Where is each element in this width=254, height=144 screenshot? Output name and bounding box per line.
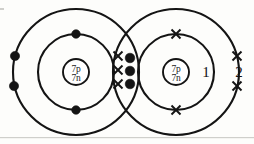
electron-dot [72, 106, 81, 115]
electron-dot [72, 30, 81, 39]
electron-dot [10, 51, 19, 60]
diagram-canvas: 7p 7n 7p 7n [0, 0, 254, 144]
right-nucleus-neutrons-label: 7n [171, 73, 181, 83]
electron-dot [125, 53, 135, 63]
left-nucleus-protons-label: 7p [71, 64, 81, 74]
shell-label-1: 1 [202, 64, 210, 80]
dot-and-cross-diagram: 7p 7n 7p 7n [0, 0, 254, 144]
shared-electron-overlap [114, 52, 135, 89]
shell-label-2: 2 [235, 64, 243, 80]
electron-dot [125, 66, 135, 76]
electron-dot [9, 81, 18, 90]
left-nucleus-neutrons-label: 7n [71, 73, 81, 83]
electron-dot [125, 79, 135, 89]
scan-artifact-left [0, 8, 4, 10]
right-nucleus-protons-label: 7p [171, 64, 181, 74]
scan-artifact-bottom [0, 137, 254, 138]
